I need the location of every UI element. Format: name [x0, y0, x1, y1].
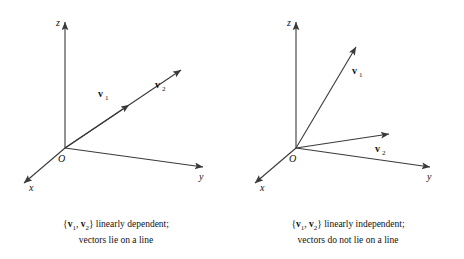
caption-dependent: {v1, v2} linearly dependent; vectors lie…	[0, 218, 232, 247]
panel-linearly-dependent: z y x O v 1 v 2 {v1, v2} linearly depend…	[0, 0, 232, 259]
panel-linearly-independent: z y x O v 1 v 2 {v1, v2} linearly indepe…	[232, 0, 464, 259]
origin-label: O	[289, 153, 296, 164]
vector-v2-label-sub: 2	[382, 149, 386, 157]
axes-diagram-independent: z y x O v 1 v 2	[232, 0, 464, 210]
figure-two-panel: z y x O v 1 v 2 {v1, v2} linearly depend…	[0, 0, 464, 259]
x-axis-label: x	[28, 182, 34, 193]
vector-v1-label-main: v	[352, 65, 357, 76]
caption-line-2: vectors lie on a line	[0, 234, 232, 247]
caption-line-1: {v1, v2} linearly independent;	[232, 218, 464, 234]
vector-v1-label-sub: 1	[105, 94, 109, 102]
z-axis-label: z	[55, 17, 60, 28]
x-axis-label: x	[259, 182, 265, 193]
vector-v2-label-sub: 2	[162, 85, 166, 93]
vector-v1-label: v 1	[352, 65, 363, 79]
vector-v2-label-main: v	[155, 79, 160, 90]
y-axis-line	[296, 148, 430, 167]
vector-v2-label: v 2	[375, 143, 386, 157]
caption-line-2: vectors do not lie on a line	[232, 234, 464, 247]
caption-independent: {v1, v2} linearly independent; vectors d…	[232, 218, 464, 247]
origin-label: O	[58, 153, 65, 164]
vector-v1-label: v 1	[98, 88, 109, 102]
caption-line-1-suffix: } linearly dependent;	[89, 219, 169, 229]
y-axis-label: y	[198, 171, 204, 182]
caption-line-1: {v1, v2} linearly dependent;	[0, 218, 232, 234]
caption-line-1-suffix: } linearly independent;	[317, 219, 404, 229]
y-axis-line	[65, 148, 203, 167]
y-axis-label: y	[426, 171, 432, 182]
vector-v2-label-main: v	[375, 143, 380, 154]
axes-diagram-dependent: z y x O v 1 v 2	[0, 0, 232, 210]
vector-v1-label-sub: 1	[359, 71, 363, 79]
vector-v1-line	[296, 47, 356, 148]
z-axis-label: z	[286, 17, 291, 28]
vector-v1-line	[65, 107, 126, 148]
vector-v1-label-main: v	[98, 88, 103, 99]
